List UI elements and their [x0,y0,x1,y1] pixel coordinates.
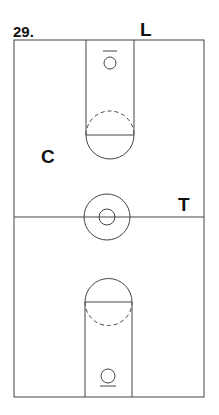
player-label-c: C [41,147,55,166]
diagram-number: 29. [13,24,34,39]
bottom-key [85,279,132,398]
bottom-basket [101,369,115,383]
player-label-l: L [140,20,152,39]
top-basket [104,57,116,69]
court-boundary [14,40,204,397]
player-label-t: T [178,195,190,214]
top-key [86,40,134,159]
